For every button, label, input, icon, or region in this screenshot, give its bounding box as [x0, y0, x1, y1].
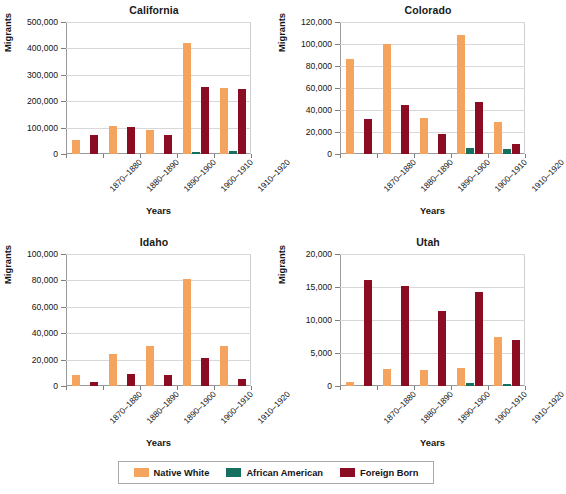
x-tick-labels-colorado: 1870–18801880–18901890–19001900–19101910…	[340, 157, 525, 205]
y-axis-title-colorado: Migrants	[276, 13, 287, 52]
plot-area-california: 0100,000200,000300,000400,000500,000	[66, 22, 251, 154]
bar-african-american	[466, 148, 474, 154]
bar-native-white	[183, 43, 191, 154]
bar-foreign-born	[401, 105, 409, 155]
bar-native-white	[420, 370, 428, 386]
chart-panel-california: CaliforniaMigrantsYears0100,000200,00030…	[0, 0, 274, 228]
bar-native-white	[346, 59, 354, 154]
y-tick-label: 40,000	[306, 105, 332, 115]
chart-panel-colorado: ColoradoMigrantsYears020,00040,00060,000…	[274, 0, 548, 228]
bar-african-american	[229, 151, 237, 154]
x-tick-label: 1910–1920	[529, 157, 566, 194]
y-tick-label: 15,000	[306, 282, 332, 292]
bar-group-utah-3	[414, 254, 451, 386]
bar-foreign-born	[512, 144, 520, 154]
bar-group-idaho-2	[103, 254, 140, 386]
bar-native-white	[183, 279, 191, 386]
bar-native-white	[383, 369, 391, 386]
bar-group-california-5	[214, 22, 251, 154]
bar-native-white	[346, 382, 354, 386]
bar-native-white	[420, 118, 428, 154]
x-tick-label: 1890–1900	[455, 157, 492, 194]
y-axis-title-idaho: Migrants	[2, 245, 13, 284]
bar-native-white	[146, 130, 154, 154]
plot-area-colorado: 020,00040,00060,00080,000100,000120,000	[340, 22, 525, 154]
x-tick-label: 1900–1910	[218, 157, 255, 194]
x-tick-labels-california: 1870–18801880–18901890–19001900–19101910…	[66, 157, 251, 205]
bar-foreign-born	[475, 102, 483, 154]
chart-grid: CaliforniaMigrantsYears0100,000200,00030…	[0, 0, 548, 455]
bar-native-white	[383, 44, 391, 154]
y-tick-label: 100,000	[27, 249, 58, 259]
y-tick-label: 0	[327, 149, 332, 159]
bar-foreign-born	[512, 340, 520, 386]
y-tick-label: 20,000	[32, 355, 58, 365]
bar-native-white	[457, 35, 465, 154]
y-tick-label: 0	[53, 381, 58, 391]
y-tick-label: 60,000	[32, 302, 58, 312]
x-tick-label: 1890–1900	[181, 389, 218, 426]
x-tick-label: 1870–1880	[381, 389, 418, 426]
x-tick	[525, 386, 526, 390]
bar-african-american	[503, 384, 511, 386]
x-tick	[525, 154, 526, 158]
bar-foreign-born	[164, 375, 172, 386]
bar-foreign-born	[127, 127, 135, 154]
y-tick-label: 10,000	[306, 315, 332, 325]
x-tick-label: 1880–1890	[418, 157, 455, 194]
x-tick	[251, 386, 252, 390]
y-tick-label: 120,000	[301, 17, 332, 27]
x-tick-label: 1900–1910	[218, 389, 255, 426]
bar-african-american	[192, 152, 200, 154]
bar-native-white	[109, 126, 117, 154]
x-axis-title-california: Years	[66, 205, 251, 216]
bar-group-idaho-5	[214, 254, 251, 386]
x-axis-title-utah: Years	[340, 437, 525, 448]
x-tick-label: 1870–1880	[107, 389, 144, 426]
bar-group-california-3	[140, 22, 177, 154]
y-tick-label: 100,000	[27, 123, 58, 133]
bar-foreign-born	[438, 134, 446, 154]
x-tick-label: 1910–1920	[529, 389, 566, 426]
plot-area-idaho: 020,00040,00060,00080,000100,000	[66, 254, 251, 386]
bar-group-colorado-2	[377, 22, 414, 154]
bar-group-idaho-1	[66, 254, 103, 386]
plot-area-utah: 05,00010,00015,00020,000	[340, 254, 525, 386]
legend-swatch-native-white	[134, 468, 149, 477]
y-axis-title-california: Migrants	[2, 13, 13, 52]
bar-native-white	[72, 375, 80, 386]
bar-native-white	[220, 88, 228, 154]
y-tick-label: 5,000	[310, 348, 332, 358]
bar-native-white	[457, 368, 465, 386]
bar-foreign-born	[127, 374, 135, 386]
bar-native-white	[109, 354, 117, 386]
panel-title-california: California	[95, 4, 178, 16]
x-axis-title-colorado: Years	[340, 205, 525, 216]
legend-label-foreign-born: Foreign Born	[360, 468, 418, 478]
bar-group-utah-5	[488, 254, 525, 386]
y-tick-label: 40,000	[32, 328, 58, 338]
bar-foreign-born	[164, 135, 172, 154]
bar-native-white	[494, 122, 502, 154]
bar-native-white	[146, 346, 154, 386]
bar-foreign-born	[364, 280, 372, 386]
x-tick	[251, 154, 252, 158]
y-tick-label: 20,000	[306, 249, 332, 259]
y-axis-title-utah: Migrants	[276, 245, 287, 284]
x-tick-label: 1880–1890	[144, 389, 181, 426]
panel-title-idaho: Idaho	[106, 236, 169, 248]
y-tick-label: 100,000	[301, 39, 332, 49]
bar-group-california-2	[103, 22, 140, 154]
bar-group-colorado-1	[340, 22, 377, 154]
bar-group-utah-1	[340, 254, 377, 386]
bar-group-colorado-3	[414, 22, 451, 154]
y-tick-label: 80,000	[32, 275, 58, 285]
bar-foreign-born	[201, 358, 209, 386]
bar-group-california-4	[177, 22, 214, 154]
x-tick-label: 1900–1910	[492, 157, 529, 194]
y-tick-label: 80,000	[306, 61, 332, 71]
y-tick-label: 60,000	[306, 83, 332, 93]
legend-item-african-american: African American	[226, 468, 323, 478]
y-tick-label: 20,000	[306, 127, 332, 137]
legend-label-native-white: Native White	[154, 468, 210, 478]
